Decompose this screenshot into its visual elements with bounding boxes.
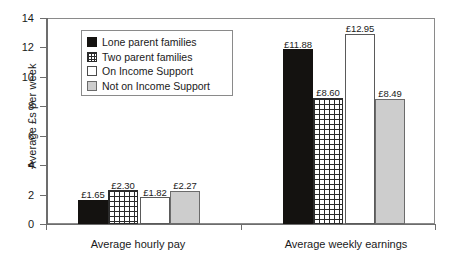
y-tick-label-0: 0 bbox=[0, 219, 34, 230]
x-category-label-average-hourly-pay: Average hourly pay bbox=[78, 238, 198, 250]
y-tick-label-6: 6 bbox=[0, 131, 34, 142]
bar-group2-lone-parent-families bbox=[283, 49, 313, 224]
bar-value-group2-not-on-income-support: £8.49 bbox=[373, 88, 407, 99]
bar-value-group2-on-income-support: £12.95 bbox=[343, 23, 377, 34]
legend-label-on-income-support: On Income Support bbox=[102, 66, 193, 77]
x-tick-mark-center bbox=[241, 224, 242, 230]
legend-item-not-on-income-support: Not on Income Support bbox=[87, 79, 227, 94]
x-category-label-average-weekly-earnings: Average weekly earnings bbox=[277, 238, 415, 250]
y-tick-label-10: 10 bbox=[0, 72, 34, 83]
legend: Lone parent families Two parent families… bbox=[81, 30, 233, 96]
bar-value-group2-two-parent-families: £8.60 bbox=[311, 87, 345, 98]
legend-swatch-gray-icon bbox=[87, 81, 97, 91]
legend-item-on-income-support: On Income Support bbox=[87, 64, 227, 79]
bar-group1-two-parent-families bbox=[108, 190, 138, 224]
legend-label-lone-parent-families: Lone parent families bbox=[102, 37, 197, 48]
bar-group2-not-on-income-support bbox=[375, 99, 405, 224]
bar-group2-on-income-support bbox=[345, 34, 375, 225]
bar-group2-two-parent-families bbox=[313, 98, 343, 225]
legend-item-lone-parent-families: Lone parent families bbox=[87, 35, 227, 50]
y-tick-label-8: 8 bbox=[0, 101, 34, 112]
bar-value-group1-not-on-income-support: £2.27 bbox=[168, 180, 202, 191]
bar-value-group1-two-parent-families: £2.30 bbox=[106, 180, 140, 191]
bar-value-group2-lone-parent-families: £11.88 bbox=[281, 39, 315, 50]
legend-swatch-white-icon bbox=[87, 66, 97, 76]
legend-swatch-crosshatch-icon bbox=[87, 52, 97, 62]
y-axis-line bbox=[46, 18, 48, 225]
bar-group1-lone-parent-families bbox=[78, 200, 108, 224]
y-tick-label-2: 2 bbox=[0, 190, 34, 201]
bar-value-group1-lone-parent-families: £1.65 bbox=[76, 189, 110, 200]
y-tick-label-14: 14 bbox=[0, 13, 34, 24]
y-tick-label-12: 12 bbox=[0, 42, 34, 53]
x-tick-mark-left bbox=[46, 224, 47, 230]
bar-value-group1-on-income-support: £1.82 bbox=[138, 187, 172, 198]
x-tick-mark-right bbox=[435, 224, 436, 230]
legend-label-not-on-income-support: Not on Income Support bbox=[102, 81, 210, 92]
legend-label-two-parent-families: Two parent families bbox=[102, 52, 192, 63]
bar-group1-not-on-income-support bbox=[170, 191, 200, 224]
bar-chart: Average £s per week 14 12 10 8 6 4 2 0 £… bbox=[0, 0, 454, 265]
bar-group1-on-income-support bbox=[140, 197, 170, 224]
y-tick-label-4: 4 bbox=[0, 160, 34, 171]
legend-item-two-parent-families: Two parent families bbox=[87, 50, 227, 65]
legend-swatch-solid-black-icon bbox=[87, 37, 97, 47]
